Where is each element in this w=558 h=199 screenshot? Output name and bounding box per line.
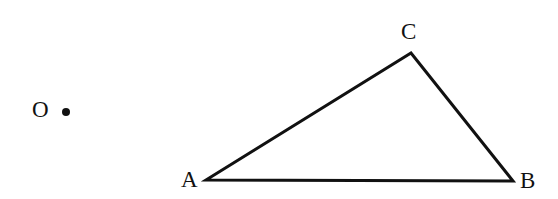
label-a: A — [181, 168, 198, 191]
label-b: B — [520, 169, 535, 192]
diagram-canvas: O A C B — [0, 0, 558, 199]
point-o-dot — [62, 108, 70, 116]
triangle-abc — [206, 53, 513, 181]
triangle-figure — [0, 0, 558, 199]
label-o: O — [32, 98, 49, 121]
label-c: C — [401, 20, 416, 43]
